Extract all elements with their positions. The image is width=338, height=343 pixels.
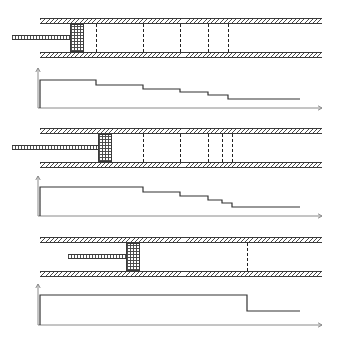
piston-head: [126, 243, 140, 271]
position-marker: [208, 134, 209, 162]
step-curve: [40, 80, 300, 108]
position-marker: [228, 24, 229, 52]
y-axis-arrowhead: [36, 68, 40, 72]
tube-wall-bottom: [40, 52, 322, 58]
x-axis-arrowhead: [318, 214, 322, 218]
piston-rod: [68, 254, 126, 259]
position-marker: [208, 24, 209, 52]
position-marker: [143, 24, 144, 52]
tube-wall-bottom: [40, 271, 322, 277]
tube-wall-bottom: [40, 162, 322, 168]
x-axis-arrowhead: [318, 106, 322, 110]
position-marker: [222, 134, 223, 162]
position-marker: [143, 134, 144, 162]
position-marker: [180, 24, 181, 52]
position-marker: [180, 134, 181, 162]
piston-rod: [12, 145, 98, 150]
piston-rod: [12, 35, 70, 40]
step-curve: [40, 295, 300, 325]
position-marker: [96, 24, 97, 52]
piston-head: [98, 134, 112, 162]
step-curve: [40, 187, 300, 216]
tube-wall-top: [40, 128, 322, 134]
piston-head: [70, 24, 84, 52]
y-axis-arrowhead: [36, 284, 40, 288]
tube-wall-top: [40, 237, 322, 243]
position-marker: [232, 134, 233, 162]
position-marker: [247, 243, 248, 271]
x-axis-arrowhead: [318, 323, 322, 327]
y-axis-arrowhead: [36, 176, 40, 180]
